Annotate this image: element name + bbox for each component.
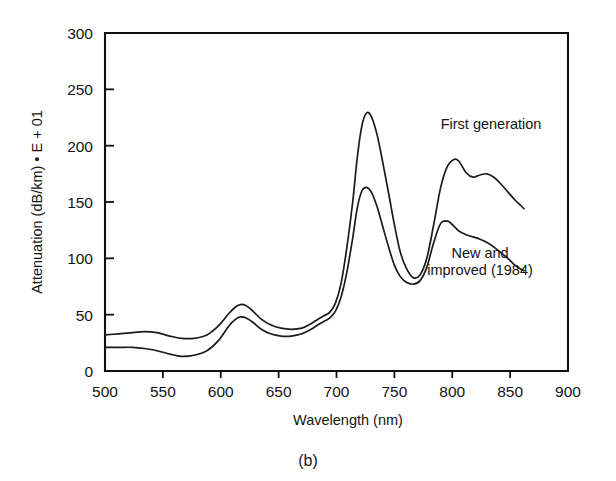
y-tick-label: 300	[67, 25, 93, 42]
x-tick-label: 900	[555, 383, 581, 400]
data-curves	[105, 112, 524, 356]
plot-frame	[105, 33, 568, 371]
x-tick-label: 700	[324, 383, 350, 400]
y-tick-label: 0	[84, 363, 93, 380]
y-axis-tick-labels: 050100150200250300	[67, 25, 93, 380]
x-tick-label: 550	[150, 383, 176, 400]
y-tick-label: 150	[67, 194, 93, 211]
x-axis-title: Wavelength (nm)	[293, 412, 403, 428]
x-tick-label: 600	[208, 383, 234, 400]
chart-annotation-label: improved (1984)	[427, 262, 533, 278]
y-axis-ticks	[105, 89, 114, 314]
y-tick-label: 50	[76, 307, 94, 324]
y-tick-label: 200	[67, 138, 93, 155]
attenuation-vs-wavelength-chart: 500550600650700750800850900 050100150200…	[0, 0, 616, 481]
chart-annotation-label: First generation	[441, 116, 542, 132]
x-tick-label: 500	[92, 383, 118, 400]
y-axis-title: Attenuation (dB/km) • E + 01	[29, 110, 45, 294]
x-tick-label: 850	[497, 383, 523, 400]
x-tick-label: 800	[439, 383, 465, 400]
x-tick-label: 750	[381, 383, 407, 400]
figure-panel-b: 500550600650700750800850900 050100150200…	[0, 0, 616, 481]
x-axis-tick-labels: 500550600650700750800850900	[92, 383, 581, 400]
chart-annotations: First generationNew andimproved (1984)	[427, 116, 541, 278]
curve-first-generation	[105, 112, 524, 338]
figure-caption: (b)	[298, 452, 318, 469]
chart-annotation-label: New and	[451, 245, 508, 261]
y-tick-label: 100	[67, 250, 93, 267]
y-tick-label: 250	[67, 81, 93, 98]
x-tick-label: 650	[266, 383, 292, 400]
